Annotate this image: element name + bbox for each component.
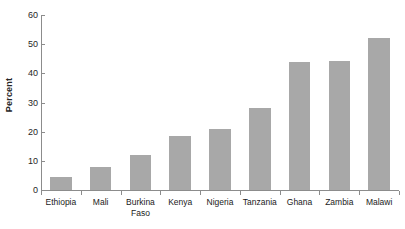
y-axis-tick-label: 40 [16, 69, 38, 78]
category-label-line1: Nigeria [207, 197, 234, 207]
category-label-line1: Kenya [168, 197, 192, 207]
x-axis-category-label: BurkinaFaso [121, 197, 161, 218]
category-label-line1: Zambia [325, 197, 353, 207]
bar [329, 61, 350, 190]
bar [130, 155, 151, 190]
x-axis-tick [200, 191, 201, 195]
x-axis-tick [160, 191, 161, 195]
bar [209, 129, 230, 190]
x-axis-tick [359, 191, 360, 195]
bar [368, 38, 389, 190]
plot-area [41, 15, 399, 190]
category-label-line1: Ghana [287, 197, 313, 207]
x-axis-tick [81, 191, 82, 195]
bar [249, 108, 270, 190]
x-axis-tick [121, 191, 122, 195]
category-label-line1: Tanzania [243, 197, 277, 207]
x-axis-category-label: Mali [81, 197, 121, 208]
x-axis-category-label: Ethiopia [41, 197, 81, 208]
category-label-line2: Faso [121, 208, 161, 219]
y-axis-tick-label: 20 [16, 127, 38, 136]
category-label-line1: Ethiopia [46, 197, 77, 207]
bar-chart: Percent 0102030405060 EthiopiaMaliBurkin… [0, 0, 405, 229]
x-axis-tick [319, 191, 320, 195]
x-axis-category-label: Nigeria [200, 197, 240, 208]
x-axis-category-label: Malawi [359, 197, 399, 208]
x-axis-tick [280, 191, 281, 195]
y-axis-tick-label: 50 [16, 40, 38, 49]
x-axis-tick [41, 191, 42, 195]
bar [90, 167, 111, 190]
category-label-line1: Mali [93, 197, 109, 207]
bar [169, 136, 190, 190]
x-axis-category-label: Zambia [319, 197, 359, 208]
x-axis-line [41, 190, 399, 191]
y-axis-tick-label: 10 [16, 156, 38, 165]
x-axis-tick [399, 191, 400, 195]
y-axis-tick-label: 60 [16, 11, 38, 20]
y-axis-tick-label: 0 [16, 186, 38, 195]
x-axis-category-label: Ghana [280, 197, 320, 208]
y-axis-title-text: Percent [4, 78, 14, 112]
y-axis-tick-label: 30 [16, 98, 38, 107]
category-label-line1: Burkina [126, 197, 155, 207]
category-label-line1: Malawi [366, 197, 392, 207]
x-axis-category-label: Tanzania [240, 197, 280, 208]
bar [289, 62, 310, 190]
x-axis-tick [240, 191, 241, 195]
bar [50, 177, 71, 190]
x-axis-category-label: Kenya [160, 197, 200, 208]
